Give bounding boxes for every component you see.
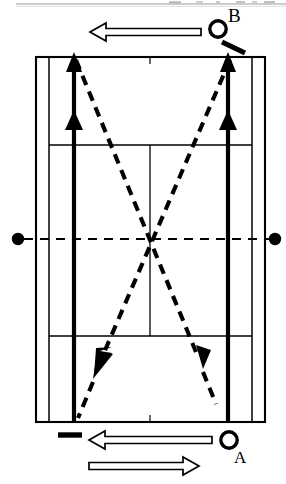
shuttle-tail-near-left xyxy=(78,382,93,418)
player-b-racket-stroke-icon xyxy=(222,42,245,53)
diagram-canvas: B A xyxy=(0,0,286,484)
player-b-circle-icon xyxy=(210,21,226,37)
player-b-label: B xyxy=(228,6,241,25)
top-hollow-arrow-left xyxy=(90,23,201,41)
shuttle-tail-near-right xyxy=(203,372,216,404)
movement-arrow-right-head-mid xyxy=(219,110,237,130)
net-post-left-icon xyxy=(12,233,24,245)
badminton-court-diagram xyxy=(0,0,286,484)
shuttle-path-tails xyxy=(78,372,216,418)
shuttle-paths xyxy=(76,60,230,362)
shuttle-path-b-right-to-near-left xyxy=(100,60,230,362)
movement-arrow-right-head-top xyxy=(220,52,236,72)
bottom-hollow-arrow-right xyxy=(89,457,199,475)
shuttle-path-b-left-to-near-right xyxy=(76,60,196,352)
player-a-circle-icon xyxy=(221,432,237,448)
movement-arrow-left-head-mid xyxy=(65,110,83,130)
movement-arrow-left-head-top xyxy=(66,52,82,72)
bottom-hollow-arrow-left xyxy=(89,431,212,449)
arrowhead-near-right-solid xyxy=(196,345,211,369)
player-a-label: A xyxy=(234,449,246,466)
net-post-right-icon xyxy=(269,233,281,245)
top-page-rule xyxy=(16,1,286,6)
